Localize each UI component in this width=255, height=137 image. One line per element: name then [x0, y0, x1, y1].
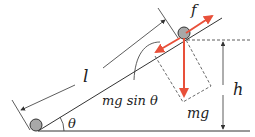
- component-arrow: [156, 38, 180, 52]
- length-arrow-left: [21, 85, 75, 110]
- length-tick-bottom: [12, 100, 30, 130]
- ball-bottom: [30, 119, 42, 131]
- angle-arc: [60, 117, 64, 131]
- component-label: mg sin θ: [102, 93, 158, 108]
- ball-top: [178, 27, 190, 39]
- friction-label: f: [190, 1, 199, 19]
- friction-arrow: [186, 16, 212, 33]
- component-leader: [134, 42, 160, 80]
- length-arrow-right: [103, 20, 165, 68]
- height-label: h: [233, 80, 243, 99]
- length-label: l: [83, 66, 88, 86]
- angle-label: θ: [68, 116, 76, 131]
- incline-diagram: l h θ f mg mg sin θ: [0, 0, 255, 137]
- weight-label: mg: [187, 105, 209, 121]
